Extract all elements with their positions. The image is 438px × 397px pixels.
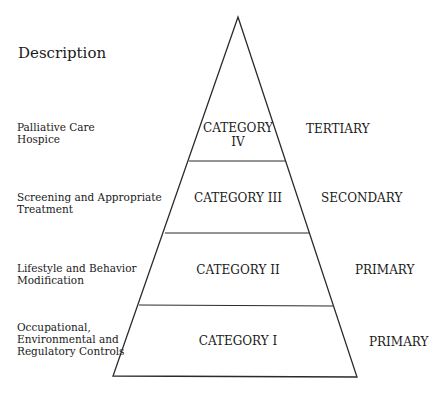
tier-3-level: SECONDARY (321, 191, 402, 205)
description-heading: Description (18, 44, 106, 62)
description-line: Lifestyle and Behavior (17, 262, 137, 274)
figure-caption-cutoff (8, 391, 188, 397)
tier-4-description: Palliative Care Hospice (17, 121, 95, 145)
tier-3-description: Screening and Appropriate Treatment (17, 191, 162, 215)
tier-1-category: CATEGORY I (188, 334, 288, 348)
category-line: CATEGORY (198, 121, 278, 135)
category-line: CATEGORY III (188, 191, 288, 205)
category-line: CATEGORY II (188, 263, 288, 277)
tier-4-level: TERTIARY (306, 122, 370, 136)
description-line: Palliative Care (17, 121, 95, 133)
tier-2-description: Lifestyle and Behavior Modification (17, 262, 137, 286)
category-line: IV (198, 135, 278, 149)
description-line: Occupational, (17, 321, 124, 333)
tier-3-category: CATEGORY III (188, 191, 288, 205)
tier-4-category: CATEGORY IV (198, 121, 278, 149)
tier-2-level: PRIMARY (355, 263, 414, 277)
category-line: CATEGORY I (188, 334, 288, 348)
description-line: Modification (17, 274, 137, 286)
description-line: Screening and Appropriate (17, 191, 162, 203)
description-line: Treatment (17, 203, 162, 215)
description-line: Regulatory Controls (17, 345, 124, 357)
tier-1-level: PRIMARY (369, 335, 428, 349)
tier-1-description: Occupational, Environmental and Regulato… (17, 321, 124, 357)
description-line: Environmental and (17, 333, 124, 345)
description-line: Hospice (17, 133, 95, 145)
tier-2-category: CATEGORY II (188, 263, 288, 277)
tier-divider-2-1 (139, 305, 333, 306)
